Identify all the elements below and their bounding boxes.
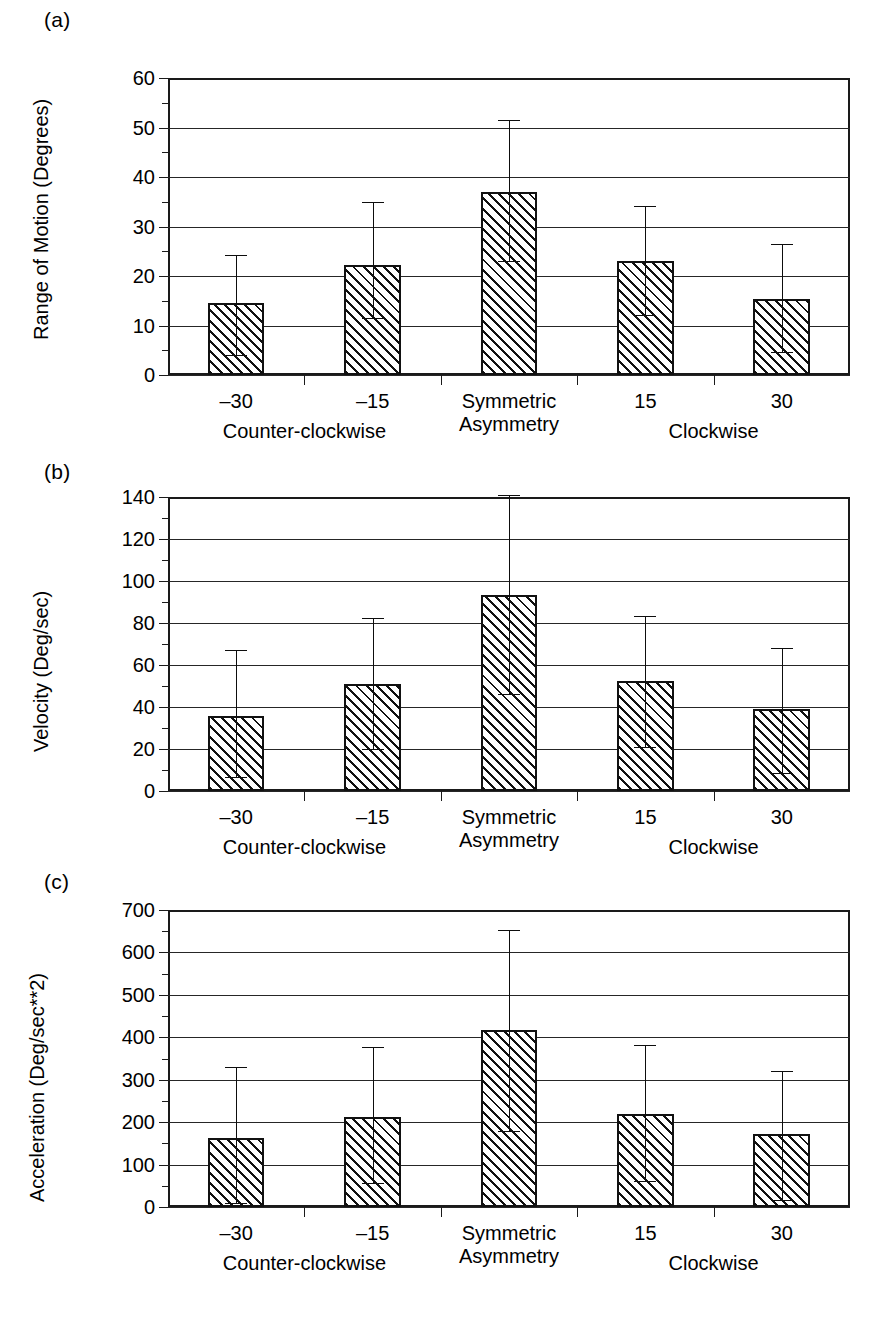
- error-bar-cap-upper: [225, 1067, 247, 1068]
- y-tick-label: 120: [122, 529, 155, 549]
- y-minor-tick: [162, 931, 168, 932]
- error-bar-cap-lower: [498, 1131, 520, 1132]
- y-tick: [159, 1207, 168, 1208]
- x-category-label-line1: 30: [771, 806, 793, 829]
- y-minor-tick: [162, 1059, 168, 1060]
- x-category-label-line1: 30: [771, 1222, 793, 1245]
- x-group-label: Counter-clockwise: [223, 1252, 386, 1275]
- error-bar: [236, 650, 237, 777]
- y-tick: [159, 227, 168, 228]
- error-bar-cap-lower: [634, 315, 656, 316]
- plot-area-a: 0102030405060: [168, 78, 850, 375]
- y-tick: [159, 623, 168, 624]
- panel-a: (a) Range of Motion (Degrees) 0102030405…: [0, 0, 887, 460]
- y-minor-tick: [162, 1101, 168, 1102]
- y-tick: [159, 539, 168, 540]
- error-bar-cap-lower: [771, 773, 793, 774]
- y-tick: [159, 791, 168, 792]
- x-category-label: –15: [356, 1222, 389, 1245]
- error-bar-cap-upper: [498, 495, 520, 496]
- x-tick: [304, 791, 305, 801]
- error-bar: [645, 616, 646, 747]
- error-bar-cap-lower: [225, 1203, 247, 1204]
- y-tick-label: 20: [133, 739, 155, 759]
- error-bar-cap-lower: [362, 318, 384, 319]
- y-tick: [159, 177, 168, 178]
- error-bar-cap-lower: [771, 352, 793, 353]
- error-bar: [782, 244, 783, 352]
- y-tick-label: 600: [122, 942, 155, 962]
- x-group-label: Clockwise: [669, 1252, 759, 1275]
- error-bar: [645, 1045, 646, 1181]
- x-category-label-line1: –30: [220, 1222, 253, 1245]
- y-tick-label: 200: [122, 1112, 155, 1132]
- y-minor-tick: [162, 602, 168, 603]
- error-bar: [236, 255, 237, 355]
- y-minor-tick: [162, 350, 168, 351]
- x-category-label: 30: [771, 390, 793, 413]
- y-tick: [159, 497, 168, 498]
- y-tick-label: 0: [144, 781, 155, 801]
- y-tick-label: 140: [122, 487, 155, 507]
- error-bar: [509, 495, 510, 695]
- x-category-label-line2: Asymmetry: [459, 413, 559, 436]
- error-bar-cap-upper: [362, 202, 384, 203]
- x-category-label-line1: –15: [356, 390, 389, 413]
- y-tick-label: 40: [133, 697, 155, 717]
- x-tick: [441, 791, 442, 801]
- x-category-label-line1: –15: [356, 1222, 389, 1245]
- error-bar: [782, 1071, 783, 1200]
- y-minor-tick: [162, 560, 168, 561]
- gridline: [168, 375, 850, 376]
- error-bar-cap-upper: [362, 618, 384, 619]
- gridline: [168, 791, 850, 792]
- y-axis-label-a: Range of Motion (Degrees): [30, 99, 53, 340]
- x-tick: [714, 791, 715, 801]
- y-axis-label-b: Velocity (Deg/sec): [30, 591, 53, 752]
- error-bar: [236, 1067, 237, 1203]
- y-minor-tick: [162, 1143, 168, 1144]
- y-minor-tick: [162, 686, 168, 687]
- x-category-label: 30: [771, 806, 793, 829]
- y-tick-label: 100: [122, 571, 155, 591]
- y-tick-label: 10: [133, 316, 155, 336]
- x-tick: [577, 375, 578, 385]
- x-category-label-line1: –15: [356, 806, 389, 829]
- panel-label-b: (b): [44, 460, 71, 484]
- error-bar: [645, 206, 646, 315]
- x-category-label-line1: 15: [634, 1222, 656, 1245]
- plot-area-b: 020406080100120140: [168, 497, 850, 791]
- error-bar: [509, 930, 510, 1131]
- x-category-label: –30: [220, 390, 253, 413]
- error-bar-cap-upper: [225, 650, 247, 651]
- error-bar-cap-upper: [634, 1045, 656, 1046]
- y-tick: [159, 1080, 168, 1081]
- error-bar-cap-lower: [362, 1183, 384, 1184]
- x-category-label-line1: Symmetric: [459, 806, 559, 829]
- x-tick: [304, 375, 305, 385]
- y-tick-label: 700: [122, 900, 155, 920]
- x-category-label-line1: 30: [771, 390, 793, 413]
- x-category-label: –30: [220, 1222, 253, 1245]
- y-tick: [159, 707, 168, 708]
- gridline: [168, 910, 850, 912]
- y-tick-label: 400: [122, 1027, 155, 1047]
- y-minor-tick: [162, 518, 168, 519]
- x-category-label: –15: [356, 806, 389, 829]
- y-tick-label: 60: [133, 655, 155, 675]
- y-tick: [159, 1037, 168, 1038]
- panel-label-c: (c): [44, 870, 69, 894]
- y-tick: [159, 78, 168, 79]
- error-bar-cap-upper: [498, 930, 520, 931]
- y-tick: [159, 665, 168, 666]
- y-tick-label: 20: [133, 266, 155, 286]
- y-tick: [159, 1122, 168, 1123]
- y-minor-tick: [162, 728, 168, 729]
- y-tick: [159, 1165, 168, 1166]
- error-bar-cap-lower: [225, 777, 247, 778]
- y-tick: [159, 276, 168, 277]
- x-category-label-line2: Asymmetry: [459, 829, 559, 852]
- x-category-label: 30: [771, 1222, 793, 1245]
- error-bar: [373, 1047, 374, 1183]
- x-tick: [577, 791, 578, 801]
